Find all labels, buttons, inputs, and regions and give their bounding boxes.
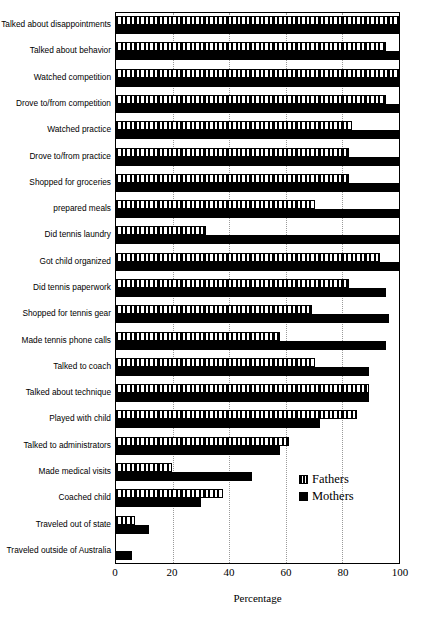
category-label: Made tennis phone calls — [22, 336, 111, 345]
bar-mothers — [115, 314, 389, 323]
category-label: Made medical visits — [39, 467, 111, 476]
bar-row — [115, 16, 400, 34]
x-axis-ticks: 020406080100 — [115, 566, 400, 582]
bar-mothers — [115, 25, 400, 34]
bar-mothers — [115, 78, 400, 87]
bar-mothers — [115, 104, 400, 113]
bar-row — [115, 121, 400, 139]
bar-row — [115, 358, 400, 376]
bar-mothers — [115, 183, 400, 192]
x-tick-label: 100 — [392, 566, 409, 578]
category-label: Talked about technique — [26, 388, 111, 397]
x-axis-title: Percentage — [115, 592, 400, 604]
bar-fathers — [115, 463, 172, 472]
legend-item-fathers: Fathers — [299, 471, 354, 488]
bar-fathers — [115, 437, 289, 446]
bar-mothers — [115, 130, 400, 139]
bar-mothers — [115, 209, 400, 218]
hatched-square-icon — [299, 475, 308, 484]
bar-fathers — [115, 69, 400, 78]
legend: Fathers Mothers — [299, 471, 354, 505]
x-tick-label: 60 — [281, 566, 292, 578]
bar-row — [115, 384, 400, 402]
bar-fathers — [115, 305, 312, 314]
legend-label-fathers: Fathers — [312, 472, 349, 487]
bar-row — [115, 279, 400, 297]
bar-fathers — [115, 148, 349, 157]
bar-mothers — [115, 472, 252, 481]
x-tick-label: 0 — [112, 566, 118, 578]
category-label: Talked about behavior — [30, 46, 111, 55]
bar-mothers — [115, 367, 369, 376]
category-label: Traveled outside of Australia — [7, 546, 111, 555]
category-label: Traveled out of state — [36, 520, 111, 529]
bar-rows — [115, 12, 400, 564]
category-label: Talked to administrators — [23, 441, 111, 450]
category-label: Drove to/from practice — [29, 152, 111, 161]
bar-row — [115, 95, 400, 113]
bar-mothers — [115, 157, 400, 166]
bar-row — [115, 42, 400, 60]
bar-fathers — [115, 358, 315, 367]
bar-fathers — [115, 95, 386, 104]
bar-fathers — [115, 200, 315, 209]
category-label: Watched practice — [47, 125, 111, 134]
bar-row — [115, 226, 400, 244]
category-label: Talked about disappointments — [1, 20, 111, 29]
bar-mothers — [115, 51, 400, 60]
bar-fathers — [115, 42, 386, 51]
bar-row — [115, 305, 400, 323]
bar-fathers — [115, 253, 380, 262]
category-label: Coached child — [58, 493, 111, 502]
bar-row — [115, 410, 400, 428]
bar-row — [115, 516, 400, 534]
bar-row — [115, 332, 400, 350]
bar-mothers — [115, 551, 132, 560]
bar-mothers — [115, 341, 386, 350]
bar-fathers — [115, 489, 223, 498]
category-label: Did tennis paperwork — [33, 283, 111, 292]
category-label: Shopped for tennis gear — [22, 309, 111, 318]
category-label: Drove to/from competition — [16, 99, 111, 108]
legend-label-mothers: Mothers — [312, 489, 354, 504]
category-axis-labels: Talked about disappointmentsTalked about… — [0, 12, 111, 564]
category-label: Shopped for groceries — [29, 178, 111, 187]
category-label: Played with child — [49, 414, 111, 423]
bar-mothers — [115, 393, 369, 402]
category-label: prepared meals — [53, 204, 111, 213]
bar-mothers — [115, 498, 201, 507]
bar-fathers — [115, 384, 369, 393]
bar-fathers — [115, 410, 357, 419]
category-label: Did tennis laundry — [45, 230, 111, 239]
bar-mothers — [115, 419, 320, 428]
bar-mothers — [115, 262, 400, 271]
legend-item-mothers: Mothers — [299, 488, 354, 505]
bar-mothers — [115, 446, 280, 455]
bar-row — [115, 69, 400, 87]
category-label: Got child organized — [40, 257, 112, 266]
bar-mothers — [115, 288, 386, 297]
bar-mothers — [115, 235, 400, 244]
bar-row — [115, 542, 400, 560]
grouped-bar-chart: Talked about disappointmentsTalked about… — [0, 0, 429, 627]
bar-row — [115, 463, 400, 481]
x-tick-label: 80 — [338, 566, 349, 578]
bar-fathers — [115, 16, 400, 25]
bar-row — [115, 174, 400, 192]
bar-fathers — [115, 516, 135, 525]
x-tick-label: 20 — [167, 566, 178, 578]
bar-fathers — [115, 332, 280, 341]
x-tick-label: 40 — [224, 566, 235, 578]
bar-row — [115, 489, 400, 507]
bar-row — [115, 148, 400, 166]
bar-row — [115, 200, 400, 218]
bar-row — [115, 253, 400, 271]
bar-mothers — [115, 525, 149, 534]
bar-row — [115, 437, 400, 455]
category-label: Talked to coach — [53, 362, 111, 371]
bar-fathers — [115, 121, 352, 130]
bar-fathers — [115, 279, 349, 288]
category-label: Watched competition — [34, 73, 111, 82]
filled-square-icon — [299, 492, 308, 501]
bar-fathers — [115, 226, 206, 235]
